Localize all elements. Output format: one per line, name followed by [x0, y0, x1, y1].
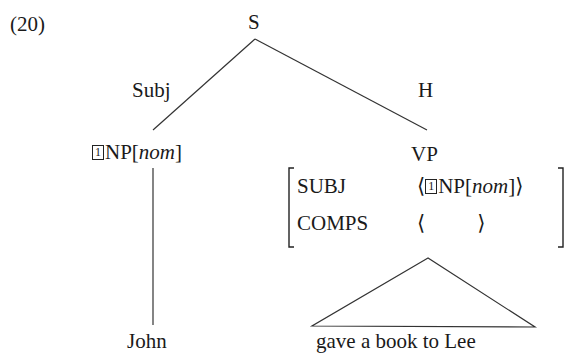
- structure-sharing-tag: 1: [92, 145, 104, 160]
- angle-open: ⟨: [417, 211, 425, 235]
- np-case-feature: nom: [139, 140, 175, 164]
- value-case-feature: nom: [472, 174, 508, 198]
- node-vp: VP: [411, 144, 438, 165]
- edge-label-subj: Subj: [132, 80, 171, 101]
- value-category: NP: [438, 174, 465, 198]
- bracket-open: [: [132, 140, 139, 164]
- bracket-open: [: [465, 174, 472, 198]
- avm-left-bracket: [289, 168, 294, 247]
- avm-value-subj: ⟨1NP[nom]⟩: [417, 176, 523, 197]
- np-category: NP: [105, 140, 132, 164]
- node-np: 1NP[nom]: [92, 142, 182, 163]
- node-s: S: [248, 12, 260, 33]
- avm-attr-subj: SUBJ: [297, 176, 346, 197]
- angle-close: ⟩: [477, 211, 485, 235]
- bracket-close: ]: [175, 140, 182, 164]
- structure-sharing-tag: 1: [425, 179, 437, 194]
- edge-head: [255, 39, 427, 130]
- angle-close: ⟩: [515, 174, 523, 198]
- vp-triangle: [312, 258, 535, 327]
- avm-attr-comps: COMPS: [297, 213, 368, 234]
- angle-open: ⟨: [417, 174, 425, 198]
- example-number: (20): [10, 14, 45, 35]
- edge-label-head: H: [418, 80, 433, 101]
- leaf-john: John: [127, 331, 167, 352]
- avm-value-comps: ⟨⟩: [417, 213, 485, 234]
- avm-right-bracket: [558, 168, 563, 247]
- leaf-vp-phrase: gave a book to Lee: [316, 331, 476, 352]
